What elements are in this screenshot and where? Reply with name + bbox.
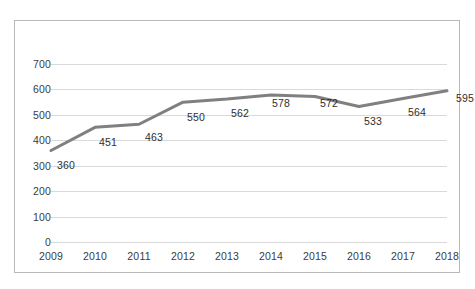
y-axis-tick-label: 0 [17, 237, 51, 248]
x-axis-tick-label: 2018 [435, 250, 459, 262]
data-point-label: 451 [99, 137, 117, 148]
x-axis-tick-label: 2009 [39, 250, 63, 262]
y-axis-tick-label: 500 [17, 110, 51, 121]
x-axis-tick-label: 2010 [83, 250, 107, 262]
y-axis-tick-label: 400 [17, 135, 51, 146]
data-point-label: 360 [57, 160, 75, 171]
data-point-label: 564 [408, 107, 426, 118]
data-point-label: 533 [364, 116, 382, 127]
x-axis-tick-label: 2012 [171, 250, 195, 262]
data-point-label: 550 [187, 112, 205, 123]
y-axis: 7006005004003002001000 [15, 21, 51, 272]
x-axis-tick-label: 2017 [391, 250, 415, 262]
plot-area: 7006005004003002001000 36045146355056257… [15, 21, 459, 272]
y-axis-tick-label: 300 [17, 160, 51, 171]
data-point-label: 578 [272, 98, 290, 109]
data-label-layer: 360451463550562578572533564595 [51, 21, 447, 242]
chart-container: 7006005004003002001000 36045146355056257… [14, 20, 460, 273]
x-axis-tick-label: 2015 [303, 250, 327, 262]
data-point-label: 572 [320, 98, 338, 109]
x-axis-tick-label: 2016 [347, 250, 371, 262]
data-point-label: 463 [145, 132, 163, 143]
y-axis-tick-label: 100 [17, 211, 51, 222]
data-point-label: 595 [456, 93, 474, 104]
y-axis-tick-label: 200 [17, 186, 51, 197]
data-point-label: 562 [231, 108, 249, 119]
x-axis: 2009201020112012201320142015201620172018 [51, 242, 447, 272]
y-axis-tick-label: 600 [17, 84, 51, 95]
x-axis-tick-label: 2013 [215, 250, 239, 262]
x-axis-tick-label: 2014 [259, 250, 283, 262]
x-axis-tick-label: 2011 [127, 250, 150, 262]
y-axis-tick-label: 700 [17, 59, 51, 70]
